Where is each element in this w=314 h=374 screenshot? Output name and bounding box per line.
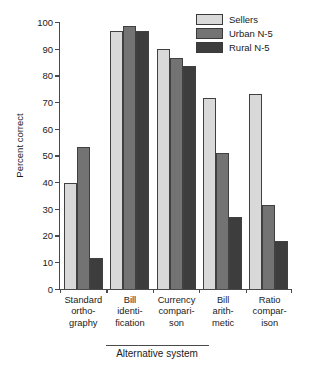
y-tick-label: 0 (48, 283, 53, 294)
y-tick-label: 70 (42, 97, 53, 108)
x-tick-mark (199, 289, 200, 293)
x-axis-category-labels: Standardortho-graphyBillidenti-ficationC… (60, 295, 293, 329)
bar (183, 66, 196, 289)
bar (203, 98, 216, 289)
bar (90, 258, 103, 289)
x-axis-label-line: Standard (60, 295, 107, 306)
bar-group (153, 22, 199, 289)
x-axis-label: Ratiocompar-ison (246, 295, 293, 329)
x-tick-mark (291, 289, 292, 293)
bar (275, 241, 288, 289)
y-axis-title-text: Percent correct (14, 113, 25, 177)
x-axis-label-line: compar- (246, 306, 293, 317)
bar (110, 31, 123, 288)
x-axis-label: Billarith-metic (200, 295, 247, 329)
bar-group (246, 22, 292, 289)
x-axis-label-line: ison (246, 318, 293, 329)
x-axis-label-line: metic (200, 318, 247, 329)
bar (249, 94, 262, 289)
x-axis-label-line: graphy (60, 318, 107, 329)
plot-area: 0102030405060708090100 (59, 22, 292, 290)
y-tick-mark (55, 289, 59, 290)
x-axis-label-line: son (153, 318, 200, 329)
x-tick-mark (60, 289, 61, 293)
y-axis-title: Percent correct (12, 0, 26, 290)
x-axis-label-line: fication (107, 318, 154, 329)
y-tick-mark (55, 49, 59, 50)
y-tick-label: 50 (42, 150, 53, 161)
bar (170, 58, 183, 289)
y-tick-mark (55, 209, 59, 210)
y-tick-label: 10 (42, 257, 53, 268)
x-axis-label: Billidenti-fication (107, 295, 154, 329)
y-tick-mark (55, 235, 59, 236)
x-axis-label-line: Currency (153, 295, 200, 306)
y-tick-label: 100 (37, 17, 53, 28)
y-tick-mark (55, 182, 59, 183)
y-tick-label: 80 (42, 70, 53, 81)
x-tick-mark (106, 289, 107, 293)
x-axis-label: Standardortho-graphy (60, 295, 107, 329)
y-tick-mark (55, 75, 59, 76)
y-tick-label: 90 (42, 43, 53, 54)
bar (136, 31, 149, 288)
x-axis-label-line: compari- (153, 306, 200, 317)
bar (262, 205, 275, 289)
y-tick-label: 20 (42, 230, 53, 241)
x-axis-label-line: Bill (200, 295, 247, 306)
bar (77, 147, 90, 288)
y-tick-mark (55, 22, 59, 23)
y-tick-mark (55, 129, 59, 130)
x-axis-label-line: Bill (107, 295, 154, 306)
x-axis-label-line: arith- (200, 306, 247, 317)
x-tick-mark (153, 289, 154, 293)
x-axis-label: Currencycompari-son (153, 295, 200, 329)
bar (157, 49, 170, 289)
y-tick-mark (55, 262, 59, 263)
x-axis-label-line: ortho- (60, 306, 107, 317)
y-tick-label: 60 (42, 123, 53, 134)
bar (229, 217, 242, 289)
y-tick-mark (55, 155, 59, 156)
x-axis-label-line: Ratio (246, 295, 293, 306)
bar (64, 183, 77, 288)
bar-group (199, 22, 245, 289)
bar-group (60, 22, 106, 289)
bar (216, 153, 229, 289)
x-axis-line (59, 289, 292, 290)
bar-chart-figure: SellersUrban N-5Rural N-5 Percent correc… (0, 0, 314, 374)
bar-groups (60, 22, 292, 289)
bar-group (106, 22, 152, 289)
y-tick-label: 30 (42, 203, 53, 214)
y-tick-mark (55, 102, 59, 103)
bar (123, 26, 136, 289)
x-axis-label-line: identi- (107, 306, 154, 317)
y-tick-label: 40 (42, 177, 53, 188)
x-axis-title: Alternative system (0, 348, 314, 359)
x-tick-mark (246, 289, 247, 293)
axis-bracket-line (106, 345, 209, 346)
